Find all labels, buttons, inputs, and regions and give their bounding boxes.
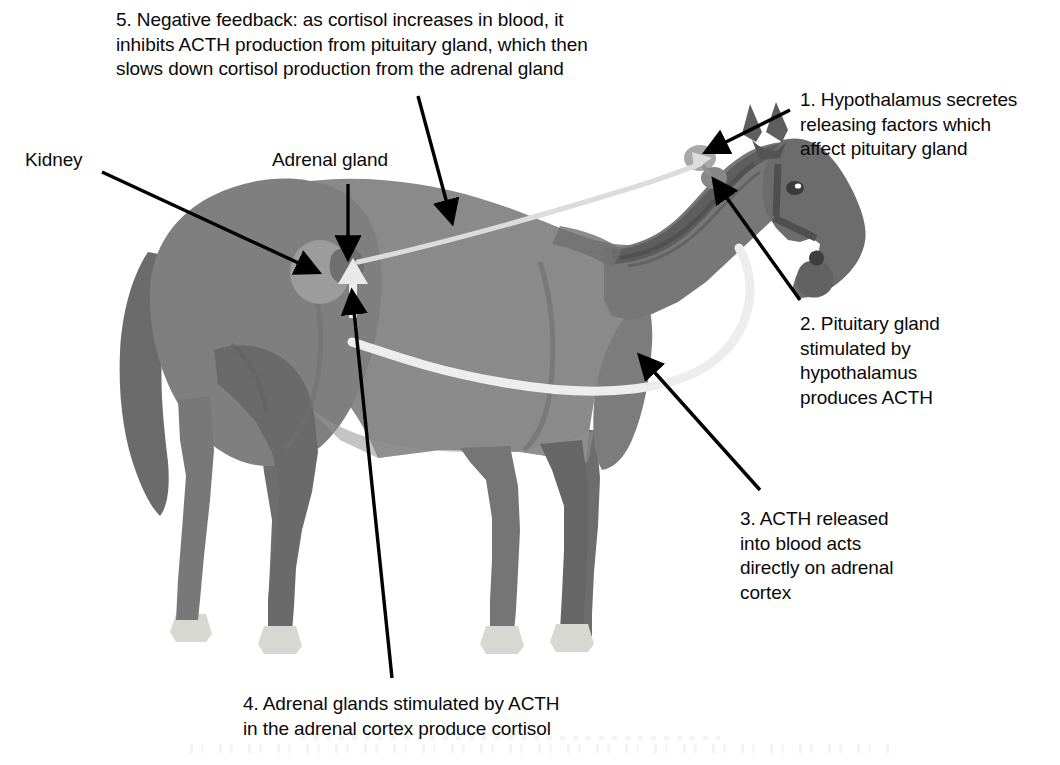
horse-halter-cheek [776, 164, 778, 216]
horse-muzzle [796, 260, 833, 297]
horse-eye-highlight [795, 183, 801, 188]
horse-hoof-hind-near [258, 626, 302, 654]
horse-halter-noseband [774, 218, 816, 238]
horse-front-leg-far [556, 430, 600, 636]
horse-withers [552, 226, 622, 268]
pointer-step1-to-hypothalamus [706, 110, 790, 152]
horse-hoof-hind-far [170, 614, 212, 642]
diagram-canvas: 5. Negative feedback: as cortisol increa… [0, 0, 1060, 765]
horse-front-leg-near [460, 446, 520, 632]
acth-pathway-arrowhead [338, 258, 368, 284]
horse-hoof-front-far [550, 624, 594, 652]
horse-stifle-shade [232, 344, 266, 412]
horse-ear-left [742, 104, 762, 142]
kidney-organ [290, 240, 350, 304]
scan-artifact-bottom-secondary [300, 736, 720, 740]
annotation-step-3: 3. ACTH released into blood acts directl… [740, 507, 990, 605]
horse-mane-strands [620, 164, 754, 258]
horse-head [762, 139, 866, 299]
horse-tail [120, 252, 180, 516]
horse-belly-shade [300, 400, 594, 462]
hormone-pathways [338, 152, 750, 391]
annotation-step-1: 1. Hypothalamus secretes releasing facto… [800, 88, 1060, 162]
horse-ear-right [766, 102, 788, 142]
annotation-step-4: 4. Adrenal glands stimulated by ACTH in … [243, 692, 703, 741]
pointer-arrows [102, 96, 800, 678]
negative-feedback-pathway [358, 164, 700, 262]
horse-front-leg-far-visible [540, 440, 588, 630]
annotation-step-2: 2. Pituitary gland stimulated by hypotha… [800, 312, 1040, 410]
annotation-step-5: 5. Negative feedback: as cortisol increa… [116, 8, 716, 82]
horse-mane [612, 142, 798, 264]
horse-neck [604, 142, 818, 320]
pituitary-stalk [703, 166, 711, 176]
acth-blood-pathway [352, 248, 750, 391]
horse-flank-shade [284, 250, 321, 450]
horse-hoof-front-near [480, 626, 524, 654]
pointer-step3-to-blood [640, 356, 760, 490]
horse-mane-strands-2 [628, 172, 760, 266]
pituitary-gland-organ [701, 167, 727, 189]
horse-nostril [809, 250, 824, 265]
pointer-step4-to-adrenal-cortex [352, 292, 392, 678]
annotation-kidney: Kidney [25, 148, 155, 173]
horse-hind-leg-near [214, 345, 318, 632]
horse-forelock [752, 140, 786, 160]
pointer-kidney [102, 172, 318, 272]
horse-chest [560, 250, 652, 470]
horse-hind-leg-far [258, 420, 304, 640]
horse-trunk [175, 179, 640, 462]
annotation-adrenal-gland: Adrenal gland [272, 148, 462, 173]
horse-hind-leg-far-visible [176, 396, 214, 620]
horse-hindquarter [150, 179, 382, 467]
pointer-step2-to-pituitary [714, 180, 800, 300]
negative-feedback-arrowhead [692, 152, 712, 170]
horse-eye [786, 181, 804, 195]
horse-shoulder-shade [524, 262, 553, 450]
adrenal-gland-organ [330, 248, 365, 284]
hypothalamus-organ [684, 145, 716, 171]
scan-artifact-bottom [190, 744, 890, 753]
